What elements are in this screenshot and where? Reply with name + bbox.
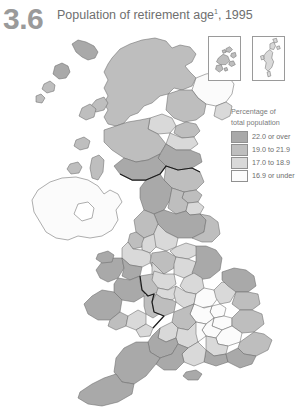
legend-swatch-2 [231, 144, 248, 156]
orkney-east-isle [229, 61, 236, 67]
legend-swatch-1 [231, 131, 248, 143]
region-western-isles-south [53, 63, 70, 79]
region-mull [74, 137, 90, 150]
figure-container: 3.6 Population of retirement age1, 1995 [0, 0, 307, 418]
legend-item-1: 22.0 or over [231, 130, 305, 143]
region-fife [174, 122, 200, 138]
legend-swatch-4 [231, 170, 248, 182]
legend-label-1: 22.0 or over [252, 132, 290, 141]
legend-item-4: 16.9 or under [231, 169, 305, 182]
region-islay [67, 162, 82, 174]
legend-item-2: 19.0 to 21.9 [231, 143, 305, 156]
legend-item-3: 17.0 to 18.9 [231, 156, 305, 169]
region-western-isles [72, 40, 98, 60]
legend-title: Percentage of total population [231, 106, 305, 128]
shetland-fetlar [276, 46, 280, 50]
region-kent [238, 332, 272, 356]
region-isle-of-wight [183, 370, 202, 380]
shetland-inset [252, 36, 285, 81]
region-anglesey [96, 251, 114, 263]
orkney-hoy [216, 65, 224, 73]
region-kintyre [90, 155, 104, 180]
orkney-small-isle-1 [222, 50, 226, 54]
map-regions [32, 38, 272, 406]
region-western-isles-barra [42, 81, 55, 93]
orkney-islands [216, 47, 237, 72]
shetland-mainland [263, 50, 273, 72]
legend-label-2: 19.0 to 21.9 [252, 145, 290, 154]
region-suffolk [232, 292, 260, 310]
shetland-west-isle [261, 55, 265, 60]
orkney-mainland [217, 54, 230, 64]
map-legend: Percentage of total population 22.0 or o… [231, 106, 305, 182]
shetland-islands [261, 38, 281, 77]
orkney-inset [208, 36, 241, 81]
shetland-south-tip [267, 71, 271, 77]
orkney-small-isle-2 [224, 67, 228, 71]
legend-label-3: 17.0 to 18.9 [252, 158, 290, 167]
region-island-isle-lewis-tip [36, 94, 45, 103]
legend-title-line1: Percentage of [231, 106, 305, 117]
legend-label-4: 16.9 or under [252, 171, 295, 180]
region-cleveland [186, 202, 204, 215]
legend-swatch-3 [231, 157, 248, 169]
orkney-north-isle-1 [226, 47, 233, 53]
legend-title-line2: total population [231, 117, 305, 128]
orkney-north-isle-2 [231, 52, 237, 58]
